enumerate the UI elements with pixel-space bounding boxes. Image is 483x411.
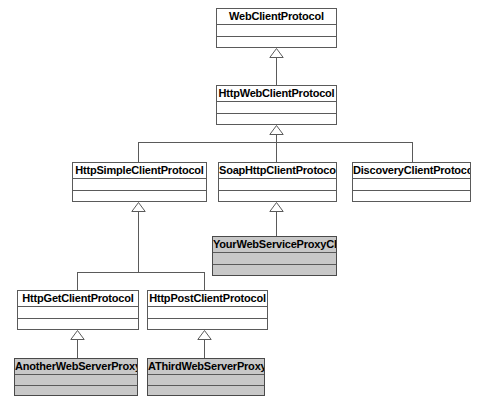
class-name-discovery-client-protocol: DiscoveryClientProtocol xyxy=(353,163,470,179)
uml-class-diagram-canvas: WebClientProtocol HttpWebClientProtocol … xyxy=(0,0,483,411)
generalization-arrow-httpsimpleclientprotocol xyxy=(131,202,146,212)
class-attributes-compartment xyxy=(217,25,336,37)
class-operations-compartment xyxy=(217,114,336,125)
generalization-line-athirdwebserverproxy-to-httppostclientprotocol xyxy=(204,340,205,358)
class-attributes-compartment xyxy=(148,375,264,386)
generalization-line-anotherwebserverproxy-to-httpgetclientprotocol xyxy=(77,340,78,358)
generalization-line-yourwebserviceproxyclass-to-soaphttpclientprotocol xyxy=(276,212,277,236)
class-attributes-compartment xyxy=(15,375,137,386)
class-box-your-web-service-proxy-class[interactable]: YourWebServiceProxyClass xyxy=(212,236,337,276)
class-attributes-compartment xyxy=(148,307,267,319)
class-attributes-compartment xyxy=(73,179,206,191)
class-box-discovery-client-protocol[interactable]: DiscoveryClientProtocol xyxy=(352,162,471,202)
class-operations-compartment xyxy=(219,191,336,202)
generalization-riser-httppostclientprotocol xyxy=(204,272,205,290)
generalization-line-stem-httpsimpleclientprotocol xyxy=(138,212,139,272)
class-name-your-web-service-proxy-class: YourWebServiceProxyClass xyxy=(213,237,336,253)
generalization-arrow-webclientprotocol xyxy=(269,48,284,58)
class-operations-compartment xyxy=(18,319,138,330)
class-box-another-web-server-proxy[interactable]: AnotherWebServerProxy xyxy=(14,358,138,396)
generalization-riser-httpsimpleclientprotocol xyxy=(138,142,139,162)
class-operations-compartment xyxy=(148,319,267,330)
class-name-http-get-client-protocol: HttpGetClientProtocol xyxy=(18,291,138,307)
class-attributes-compartment xyxy=(353,179,470,191)
generalization-arrow-httpwebclientprotocol xyxy=(269,125,284,135)
class-name-web-client-protocol: WebClientProtocol xyxy=(217,9,336,25)
class-operations-compartment xyxy=(15,386,137,396)
class-attributes-compartment xyxy=(18,307,138,319)
class-name-http-simple-client-protocol: HttpSimpleClientProtocol xyxy=(73,163,206,179)
class-box-http-web-client-protocol[interactable]: HttpWebClientProtocol xyxy=(216,85,337,125)
generalization-arrow-soaphttpclientprotocol xyxy=(269,202,284,212)
class-name-http-web-client-protocol: HttpWebClientProtocol xyxy=(217,86,336,102)
class-name-http-post-client-protocol: HttpPostClientProtocol xyxy=(148,291,267,307)
class-box-web-client-protocol[interactable]: WebClientProtocol xyxy=(216,8,337,48)
class-box-http-get-client-protocol[interactable]: HttpGetClientProtocol xyxy=(17,290,139,330)
class-operations-compartment xyxy=(148,386,264,396)
generalization-riser-discoveryclientprotocol xyxy=(412,142,413,162)
generalization-riser-httpgetclientprotocol xyxy=(77,272,78,290)
class-name-soap-http-client-protocol: SoapHttpClientProtocol xyxy=(219,163,336,179)
class-attributes-compartment xyxy=(217,102,336,114)
generalization-bus-httpwebclientprotocol-children xyxy=(138,142,413,143)
generalization-arrow-httpgetclientprotocol xyxy=(70,330,85,340)
class-attributes-compartment xyxy=(219,179,336,191)
class-operations-compartment xyxy=(213,265,336,276)
class-box-soap-http-client-protocol[interactable]: SoapHttpClientProtocol xyxy=(218,162,337,202)
class-operations-compartment xyxy=(353,191,470,202)
class-box-http-simple-client-protocol[interactable]: HttpSimpleClientProtocol xyxy=(72,162,207,202)
generalization-arrow-httppostclientprotocol xyxy=(197,330,212,340)
class-box-http-post-client-protocol[interactable]: HttpPostClientProtocol xyxy=(147,290,268,330)
class-operations-compartment xyxy=(217,37,336,48)
class-operations-compartment xyxy=(73,191,206,202)
generalization-line-stem-httpwebclientprotocol xyxy=(276,135,277,162)
class-box-a-third-web-server-proxy[interactable]: AThirdWebServerProxy xyxy=(147,358,265,396)
generalization-bus-httpsimpleclientprotocol-children xyxy=(77,272,205,273)
class-name-another-web-server-proxy: AnotherWebServerProxy xyxy=(15,359,137,375)
class-attributes-compartment xyxy=(213,253,336,265)
class-name-a-third-web-server-proxy: AThirdWebServerProxy xyxy=(148,359,264,375)
generalization-line-httpwebclientprotocol-to-webclientprotocol xyxy=(276,58,277,85)
